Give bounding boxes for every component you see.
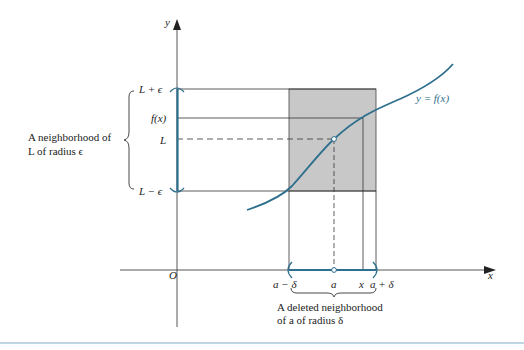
hole-point-aL [332, 137, 337, 142]
tick-a: a [331, 278, 337, 290]
delta-neighborhood-label-1: A deleted neighborhood [277, 301, 383, 313]
tick-l-plus-eps: L + ϵ [138, 83, 163, 95]
tick-x: x [358, 278, 364, 290]
x-axis-label: x [487, 269, 493, 281]
tick-a-minus-delta: a − δ [273, 278, 297, 290]
curve-label: y = f(x) [415, 92, 449, 105]
origin-label: O [169, 269, 177, 281]
tick-a-plus-delta: a + δ [370, 278, 394, 290]
y-axis-arrow-icon [173, 19, 181, 30]
hole-point-a [332, 268, 337, 273]
tick-l: L [159, 134, 166, 146]
eps-neighborhood-label-1: A neighborhood of [28, 131, 111, 143]
eps-neighborhood-label-2: L of radius ϵ [28, 145, 84, 157]
eps-neighborhood-brace [124, 91, 134, 189]
tick-l-minus-eps: L − ϵ [138, 185, 163, 197]
y-axis-label: y [164, 16, 170, 28]
tick-fx: f(x) [151, 112, 167, 125]
limit-definition-diagram: y x O L + ϵ f(x) L L − ϵ a − δ a x a + δ… [0, 0, 524, 350]
delta-neighborhood-label-2: of a of radius δ [277, 314, 343, 326]
